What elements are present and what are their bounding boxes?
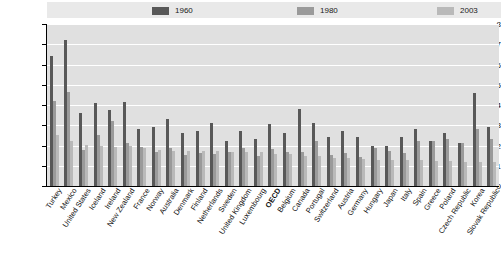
plot-area [47,24,499,186]
bar-group [237,24,252,186]
bar-group [134,24,149,186]
bar [245,152,248,186]
bar [362,159,365,186]
legend-swatch-1980 [297,7,314,15]
bar [449,161,452,186]
bar [143,148,146,186]
bar [172,151,175,186]
bar [391,160,394,186]
bar [216,151,219,186]
bar-group [105,24,120,186]
bar-group [470,24,485,186]
bar [158,150,161,186]
bar-groups [47,24,499,186]
bar [333,158,336,186]
bar-group [455,24,470,186]
bar-group [62,24,77,186]
bar-group [120,24,135,186]
bar [56,135,59,186]
bar-group [193,24,208,186]
legend-label-1980: 1980 [320,7,338,15]
bar [420,160,423,186]
bar [129,146,132,187]
bar-group [266,24,281,186]
bar-group [441,24,456,186]
bar-group [397,24,412,186]
legend-swatch-2003 [437,7,454,15]
bar [304,156,307,186]
bar [187,151,190,186]
bar [202,151,205,186]
bar [289,154,292,186]
bar-group [164,24,179,186]
legend-item-1960: 1960 [152,5,193,16]
bar-group [91,24,106,186]
legend-item-2003: 2003 [437,5,478,16]
bar [100,146,103,187]
bar [435,161,438,186]
legend-item-1980: 1980 [297,5,338,16]
chart-legend: 196019802003 [47,2,501,18]
bar-group [295,24,310,186]
bar [318,156,321,186]
bar [85,145,88,187]
bar [479,162,482,186]
bar [231,152,234,186]
legend-swatch-1960 [152,7,169,15]
bar [114,147,117,186]
bar-group [353,24,368,186]
bar [493,162,496,186]
bar-group [207,24,222,186]
bar-group [382,24,397,186]
bar-group [47,24,62,186]
bar-group [76,24,91,186]
bar [464,162,467,186]
bar-group [484,24,499,186]
bar-group [324,24,339,186]
legend-label-1960: 1960 [175,7,193,15]
bar-group [149,24,164,186]
bar-group [411,24,426,186]
bar [377,160,380,186]
bar-group [339,24,354,186]
bar [260,152,263,186]
legend-label-2003: 2003 [460,7,478,15]
bar-group [368,24,383,186]
bar-group [309,24,324,186]
bar [347,158,350,186]
bar [406,160,409,186]
bar-group [222,24,237,186]
bar-chart: 196019802003 012345678 TurkeyMexicoUnite… [0,0,501,258]
bar-group [251,24,266,186]
bar [274,154,277,186]
bar-group [426,24,441,186]
bar-group [178,24,193,186]
x-axis-labels: TurkeyMexicoUnited StatesIcelandIrelandN… [47,187,499,258]
bar [70,141,73,186]
bar-group [280,24,295,186]
